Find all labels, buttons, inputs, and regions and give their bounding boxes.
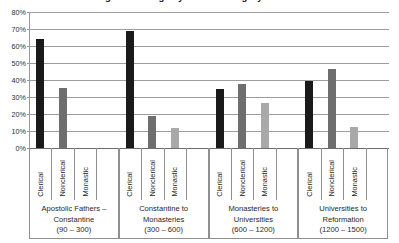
series-label: Clerical xyxy=(217,172,224,197)
group-caption-line: Reformation xyxy=(299,215,387,226)
bar xyxy=(171,128,179,148)
group-caption-line: Constantine to xyxy=(120,204,208,215)
category-group: ClericalNonclericalMonasticApostolic Fat… xyxy=(29,148,119,238)
series-label: Clerical xyxy=(37,172,44,197)
group-caption-line: (90 – 300) xyxy=(30,225,118,236)
group-caption-line: Universities xyxy=(210,215,298,226)
bar xyxy=(126,31,134,148)
series-label-cell-empty xyxy=(277,148,299,200)
series-label-cell: Clerical xyxy=(30,148,52,200)
category-group: ClericalNonclericalMonasticMonasteries t… xyxy=(209,148,299,238)
series-label-cell: Monastic xyxy=(75,148,97,200)
group-caption-line: Monasteries xyxy=(120,215,208,226)
series-label-cell: Nonclerical xyxy=(52,148,74,200)
bar xyxy=(238,84,246,148)
category-group: ClericalNonclericalMonasticConstantine t… xyxy=(119,148,209,238)
series-label-cell: Clerical xyxy=(120,148,142,200)
y-tick-label: 0% xyxy=(16,144,26,153)
series-label-cell: Nonclerical xyxy=(142,148,164,200)
category-label-panel: ClericalNonclericalMonasticApostolic Fat… xyxy=(29,148,388,238)
bars-layer xyxy=(29,12,388,149)
series-label-cell: Nonclerical xyxy=(322,148,344,200)
group-caption: Universities toReformation(1200 – 1500) xyxy=(299,204,387,236)
bar xyxy=(328,69,336,148)
bar xyxy=(261,103,269,148)
group-caption-line: Constantine xyxy=(30,215,118,226)
group-caption: Apostolic Fathers –Constantine(90 – 300) xyxy=(30,204,118,236)
y-tick-label: 40% xyxy=(12,76,26,85)
group-caption-line: (600 – 1200) xyxy=(210,225,298,236)
group-caption-line: (300 – 600) xyxy=(120,225,208,236)
group-caption: Monasteries toUniversities(600 – 1200) xyxy=(210,204,298,236)
series-label-cell: Monastic xyxy=(165,148,187,200)
group-caption-line: Monasteries to xyxy=(210,204,298,215)
series-label-cell-empty xyxy=(367,148,389,200)
bar xyxy=(36,39,44,148)
y-axis: 80%70%60%50%40%30%20%10%0% xyxy=(0,0,29,243)
group-caption-line: Apostolic Fathers – xyxy=(30,204,118,215)
series-label: Clerical xyxy=(127,172,134,197)
series-label: Monastic xyxy=(82,167,89,197)
series-label-cell: Monastic xyxy=(344,148,366,200)
series-label-cell: Nonclerical xyxy=(232,148,254,200)
series-label-cell-empty xyxy=(187,148,209,200)
series-label-cell: Monastic xyxy=(254,148,276,200)
series-label: Nonclerical xyxy=(329,160,336,197)
bar xyxy=(350,127,358,148)
y-tick-label: 50% xyxy=(12,59,26,68)
group-caption-line: (1200 – 1500) xyxy=(299,225,387,236)
series-label-cell-empty xyxy=(97,148,119,200)
series-label: Nonclerical xyxy=(239,160,246,197)
category-group: ClericalNonclericalMonasticUniversities … xyxy=(298,148,388,238)
group-caption: Constantine toMonasteries(300 – 600) xyxy=(120,204,208,236)
series-label-cell: Clerical xyxy=(299,148,321,200)
bar-chart: Percentage of Writings by Author Categor… xyxy=(0,0,399,243)
series-label: Monastic xyxy=(261,167,268,197)
chart-title: Percentage of Writings by Author Categor… xyxy=(0,0,399,3)
bar xyxy=(216,89,224,149)
series-label: Monastic xyxy=(351,167,358,197)
y-tick-label: 30% xyxy=(12,93,26,102)
y-tick-label: 60% xyxy=(12,42,26,51)
y-tick-label: 70% xyxy=(12,25,26,34)
panel-baseline xyxy=(29,238,388,239)
group-caption-line: Universities to xyxy=(299,204,387,215)
series-label: Clerical xyxy=(306,172,313,197)
series-label: Monastic xyxy=(172,167,179,197)
bar xyxy=(59,88,67,148)
series-label: Nonclerical xyxy=(59,160,66,197)
bar xyxy=(305,81,313,148)
series-label: Nonclerical xyxy=(149,160,156,197)
bar xyxy=(148,116,156,148)
y-tick-label: 80% xyxy=(12,8,26,17)
series-label-cell: Clerical xyxy=(210,148,232,200)
y-tick-label: 10% xyxy=(12,127,26,136)
y-tick-label: 20% xyxy=(12,110,26,119)
